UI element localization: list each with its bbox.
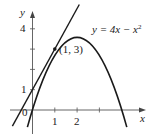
origin-label: 0 — [22, 106, 28, 118]
y-axis-arrow-icon — [30, 11, 35, 18]
curve-equation-label: y = 4x − x2 — [91, 23, 142, 35]
x-axis-label: x — [139, 112, 145, 124]
curve-equation-exponent: 2 — [138, 23, 142, 31]
y-tick-label-1: 1 — [21, 83, 27, 95]
x-tick-label-1: 1 — [52, 115, 58, 127]
tangent-point — [53, 47, 57, 51]
y-axis-label: y — [19, 6, 25, 18]
curve-equation-text: y = 4x − x — [91, 23, 138, 35]
y-tick-label-4: 4 — [20, 22, 26, 34]
tangent-line-diagram: y x 0 1 2 1 4 (1, 3) y = 4x − x2 — [0, 0, 153, 138]
point-label: (1, 3) — [59, 43, 83, 56]
x-tick-label-2: 2 — [74, 115, 80, 127]
